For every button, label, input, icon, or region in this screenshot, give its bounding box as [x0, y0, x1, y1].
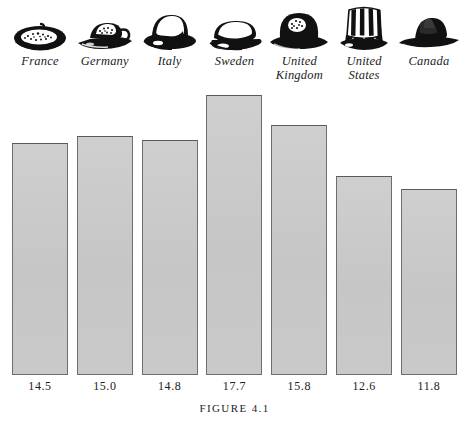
chart-column-italy: Italy 14.8	[138, 0, 202, 395]
bar-zone	[73, 90, 137, 375]
fedora-hat-icon	[138, 0, 202, 52]
bar-value-label: 17.7	[202, 379, 266, 394]
country-label-line: States	[349, 68, 380, 82]
chart-column-france: France 14.5	[8, 0, 72, 395]
mountie-hat-icon	[397, 0, 461, 52]
chart-column-sweden: Sweden 17.7	[202, 0, 266, 395]
bar-zone	[332, 90, 396, 375]
bar-france[interactable]	[12, 143, 68, 375]
bar-sweden[interactable]	[206, 95, 262, 375]
flat-cap-hat-icon	[202, 0, 266, 52]
bar-value-label: 15.0	[73, 379, 137, 394]
bar-zone	[397, 90, 461, 375]
bar-value-label: 11.8	[397, 379, 461, 394]
bowler-hat-icon	[267, 0, 331, 52]
tyrolean-hat-icon	[73, 0, 137, 52]
chart-column-germany: Germany 15.0	[73, 0, 137, 395]
bar-zone	[202, 90, 266, 375]
bar-italy[interactable]	[142, 140, 198, 375]
uncle-sam-top-hat-icon	[332, 0, 396, 52]
country-label-line: France	[21, 54, 58, 68]
country-label-line: United	[282, 54, 317, 68]
bar-chart: France 14.5	[8, 0, 461, 395]
chart-column-united-kingdom: United Kingdom 15.8	[267, 0, 331, 395]
country-label-line: Italy	[158, 54, 182, 68]
country-label-line: Canada	[409, 54, 450, 68]
bar-canada[interactable]	[401, 189, 457, 375]
country-label-line: United	[347, 54, 382, 68]
bar-zone	[8, 90, 72, 375]
figure-4-1: France 14.5	[0, 0, 469, 422]
bar-value-label: 14.5	[8, 379, 72, 394]
bar-zone	[267, 90, 331, 375]
chart-column-united-states: United States 12.6	[332, 0, 396, 395]
bar-value-label: 14.8	[138, 379, 202, 394]
bar-united-states[interactable]	[336, 176, 392, 375]
bar-value-label: 15.8	[267, 379, 331, 394]
chart-column-canada: Canada 11.8	[397, 0, 461, 395]
country-label-line: Germany	[81, 54, 129, 68]
bar-value-label: 12.6	[332, 379, 396, 394]
bar-united-kingdom[interactable]	[271, 125, 327, 375]
bar-zone	[138, 90, 202, 375]
beret-hat-icon	[8, 0, 72, 52]
country-label-line: Sweden	[215, 54, 254, 68]
country-label: Canada	[391, 54, 467, 68]
bar-germany[interactable]	[77, 136, 133, 375]
figure-caption: FIGURE 4.1	[0, 402, 469, 414]
country-label-line: Kingdom	[276, 68, 323, 82]
